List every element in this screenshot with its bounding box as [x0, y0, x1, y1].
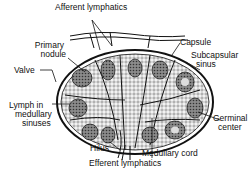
label-valve: Valve [14, 66, 35, 75]
label-subcapsular-line2: sinus [196, 60, 216, 69]
label-medullary-cord: Medullary cord [142, 149, 198, 158]
label-afferent-lymphatics: Afferent lymphatics [55, 3, 127, 12]
lymph-node-diagram: Afferent lymphatics Primary nodule Valve… [0, 0, 251, 173]
label-efferent-lymphatics: Efferent lymphatics [89, 159, 161, 168]
afferent-vessels [70, 32, 188, 48]
label-primary-nodule-line2: nodule [22, 50, 66, 59]
label-germinal-center-line2: center [218, 123, 242, 132]
lymph-node-illustration [0, 0, 251, 173]
label-capsule: Capsule [180, 38, 211, 47]
label-hilus: Hilus [90, 144, 109, 153]
label-lymph-medullary-line3: sinuses [22, 119, 51, 128]
